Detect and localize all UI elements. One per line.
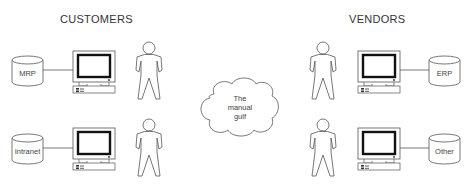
computer-icon: [358, 128, 400, 170]
database-other: Other: [429, 134, 460, 164]
cloud-label-line-1: The: [234, 94, 247, 103]
database-label-mrp: MRP: [19, 69, 36, 78]
cloud-label-line-3: gulf: [234, 112, 247, 121]
database-mrp: MRP: [12, 56, 43, 86]
computer-icon: [358, 51, 400, 93]
cloud-label-line-2: manual: [228, 103, 253, 112]
database-erp: ERP: [429, 56, 460, 86]
person-icon: [310, 42, 336, 99]
manual-gulf-cloud: The manual gulf: [201, 78, 278, 136]
database-label-other: Other: [435, 147, 454, 156]
database-label-erp: ERP: [437, 69, 452, 78]
computer-icon: [73, 51, 115, 93]
person-icon: [136, 42, 162, 99]
person-icon: [136, 119, 162, 176]
database-intranet: Intranet: [12, 134, 43, 164]
computer-icon: [73, 128, 115, 170]
database-label-intranet: Intranet: [15, 147, 41, 156]
person-icon: [310, 119, 336, 176]
